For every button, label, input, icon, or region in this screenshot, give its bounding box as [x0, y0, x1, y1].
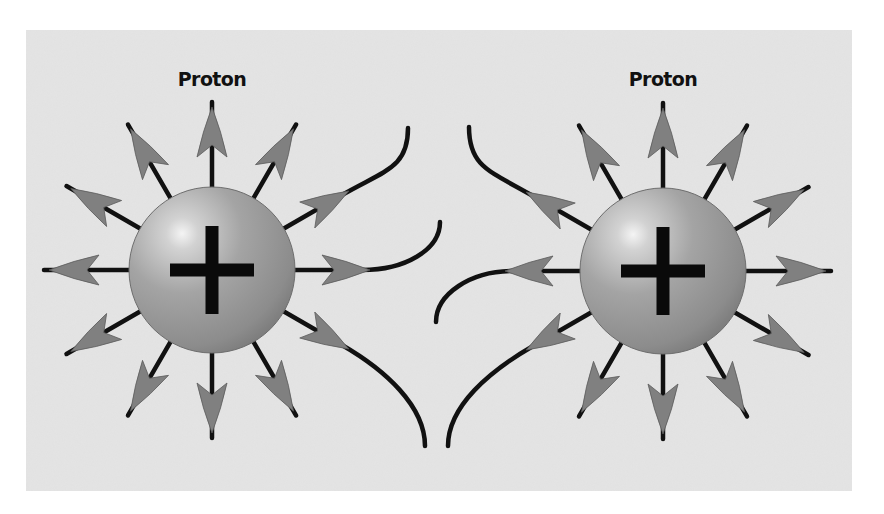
proton-label-left: Proton	[178, 68, 246, 90]
proton-sphere-left	[129, 187, 295, 353]
proton-label-right: Proton	[629, 68, 697, 90]
proton-sphere-right	[580, 188, 746, 354]
field-diagram: Proton Proton	[0, 0, 884, 514]
